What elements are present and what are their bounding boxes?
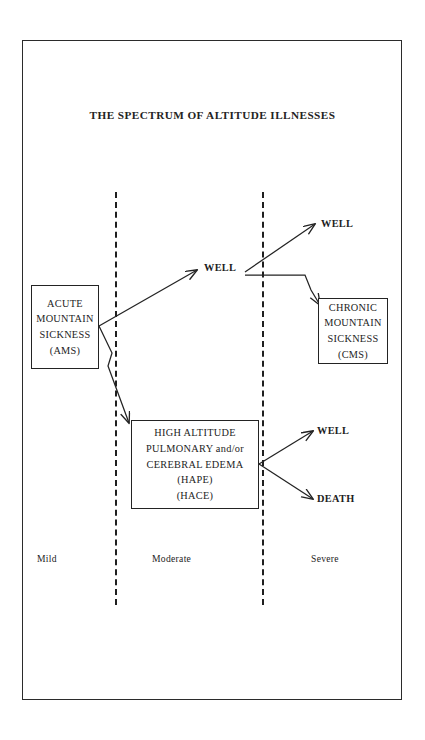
cms-line-2: MOUNTAIN bbox=[324, 315, 382, 331]
node-acute-mountain-sickness: ACUTE MOUNTAIN SICKNESS (AMS) bbox=[31, 285, 99, 369]
ams-line-4: (AMS) bbox=[50, 343, 81, 359]
ams-line-1: ACUTE bbox=[47, 296, 83, 312]
page-title: THE SPECTRUM OF ALTITUDE ILLNESSES bbox=[0, 109, 425, 121]
node-death: DEATH bbox=[316, 493, 356, 504]
diagram-page: THE SPECTRUM OF ALTITUDE ILLNESSES ACUTE… bbox=[0, 0, 425, 740]
cms-line-1: CHRONIC bbox=[329, 300, 377, 316]
node-well-right: WELL bbox=[316, 425, 350, 436]
zone-label-moderate: Moderate bbox=[152, 553, 191, 564]
zone-label-severe: Severe bbox=[311, 553, 339, 564]
node-well-middle: WELL bbox=[203, 262, 237, 273]
cms-line-4: (CMS) bbox=[338, 347, 368, 363]
hape-line-3: CEREBRAL EDEMA bbox=[147, 457, 244, 473]
hape-line-5: (HACE) bbox=[177, 488, 214, 504]
cms-line-3: SICKNESS bbox=[327, 331, 378, 347]
hape-line-2: PULMONARY and/or bbox=[146, 441, 244, 457]
severity-divider-mild-moderate bbox=[115, 192, 117, 605]
severity-divider-moderate-severe bbox=[262, 192, 264, 605]
hape-line-1: HIGH ALTITUDE bbox=[154, 425, 236, 441]
node-well-upper-right: WELL bbox=[320, 218, 354, 229]
zone-label-mild: Mild bbox=[37, 553, 57, 564]
node-high-altitude-edema: HIGH ALTITUDE PULMONARY and/or CEREBRAL … bbox=[131, 420, 259, 509]
ams-line-2: MOUNTAIN bbox=[36, 311, 94, 327]
ams-line-3: SICKNESS bbox=[39, 327, 90, 343]
hape-line-4: (HAPE) bbox=[177, 472, 213, 488]
diagram-frame bbox=[22, 40, 402, 700]
node-chronic-mountain-sickness: CHRONIC MOUNTAIN SICKNESS (CMS) bbox=[318, 298, 388, 364]
